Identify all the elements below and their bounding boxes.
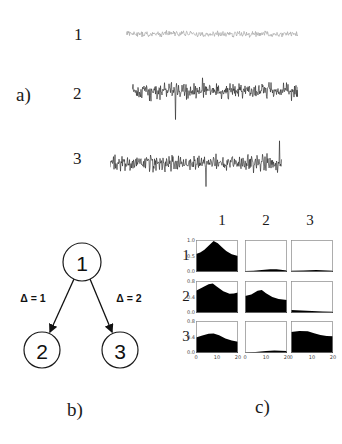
panel-a-label: a)	[16, 84, 31, 106]
xtick-c3-20: 20	[328, 354, 338, 360]
xtick-c3-0: 0	[286, 354, 296, 360]
subplot-r3c2	[245, 321, 287, 353]
xtick-c1-10: 10	[212, 354, 222, 360]
subplot-r1c1	[196, 240, 238, 272]
ytick-r3-mid: 0.4	[184, 334, 195, 340]
edge-1-to-2-arrow	[50, 279, 74, 332]
trace-1-label: 1	[74, 25, 83, 45]
xtick-c1-0: 0	[191, 354, 201, 360]
xtick-c2-10: 10	[261, 354, 271, 360]
xtick-c3-10: 10	[307, 354, 317, 360]
signal-trace-1	[126, 14, 298, 54]
panel-c-col-header-2: 2	[256, 212, 276, 229]
panel-c-col-header-3: 3	[300, 212, 320, 229]
subplot-r3c1	[196, 321, 238, 353]
graph-diagram: 1 2 3 Δ = 1 Δ = 2	[8, 232, 168, 382]
ytick-r2-top: 0.8	[184, 278, 195, 284]
ytick-r1-bot: 0.0	[184, 268, 195, 274]
panel-b-label: b)	[67, 399, 83, 421]
subplot-r1c3	[291, 240, 333, 272]
panel-c-label: c)	[255, 396, 270, 418]
subplot-r2c1	[196, 281, 238, 313]
ytick-r2-bot: 0.0	[184, 309, 195, 315]
signal-trace-3	[110, 124, 282, 202]
trace-3-label: 3	[73, 149, 82, 169]
ytick-r3-top: 0.8	[184, 318, 195, 324]
trace-2-label: 2	[73, 84, 82, 104]
xtick-c2-0: 0	[240, 354, 250, 360]
subplot-r2c2	[245, 281, 287, 313]
subplot-r3c3	[291, 321, 333, 353]
ytick-r1-top: 1.0	[184, 237, 195, 243]
edge-1-to-2-delta-label: Δ = 1	[20, 292, 46, 304]
signal-trace-2	[132, 52, 298, 130]
panel-c-col-header-1: 1	[212, 212, 232, 229]
subplot-r1c2	[245, 240, 287, 272]
graph-node-3-label: 3	[114, 340, 126, 363]
ytick-r1-mid: 0.5	[184, 253, 195, 259]
edge-1-to-3-arrow	[90, 279, 112, 332]
graph-node-2-label: 2	[36, 340, 48, 363]
edge-1-to-3-delta-label: Δ = 2	[116, 292, 142, 304]
subplot-r2c3	[291, 281, 333, 313]
figure-canvas: a) 1 2 3 1 2 3 Δ = 1 Δ = 2 b) 1 2 3 1 2 …	[0, 0, 342, 444]
graph-node-1-label: 1	[76, 252, 88, 275]
ytick-r2-mid: 0.4	[184, 294, 195, 300]
